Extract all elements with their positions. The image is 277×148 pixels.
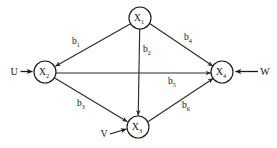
edge-label-b2: b2 [143,44,151,55]
edge-b2 [138,29,140,116]
node-x1: X1 [129,7,151,29]
path-diagram: X1 X2 X3 X4 b1 b2 [0,0,277,148]
edge-b4 [150,24,213,67]
diagram-canvas: X1 X2 X3 X4 b1 b2 [0,0,277,148]
edge-b1 [55,24,130,66]
exogenous-label-v: V [100,128,108,139]
node-x3: X3 [127,116,149,138]
edge-label-b1: b1 [72,36,80,47]
node-x2: X2 [34,61,56,83]
edge-label-b6: b6 [182,100,190,111]
edge-label-b4: b4 [184,32,192,43]
exogenous-arrow-v [110,129,127,134]
node-x4: X4 [211,61,233,83]
edge-b3 [55,78,128,122]
exogenous-label-w: W [260,66,270,77]
edge-label-b3: b3 [77,98,85,109]
edge-b6 [148,78,213,121]
edge-label-b5: b5 [168,76,176,87]
exogenous-label-u: U [10,66,18,77]
